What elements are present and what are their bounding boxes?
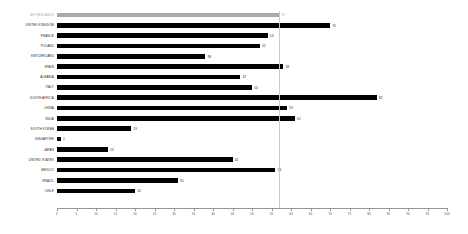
bar-row: UNITED KINGDOM70 (57, 21, 447, 31)
bar-row: JAPAN13 (57, 146, 447, 156)
bar (57, 126, 131, 131)
bar-row: SPAIN58 (57, 63, 447, 73)
bar-row: POLAND52 (57, 42, 447, 52)
bar-category-label: MEXICO (0, 166, 54, 174)
x-axis-tick-label: 95 (426, 212, 430, 217)
bar-row: SWITZERLAND38 (57, 52, 447, 62)
bar-category-label: JAPAN (0, 146, 54, 154)
bar (57, 54, 205, 59)
reference-line (279, 11, 280, 208)
bar-category-label: SPAIN (0, 63, 54, 71)
bar-category-label: ALBANIA (0, 73, 54, 81)
bar-category-label: BRAZIL (0, 177, 54, 185)
bar (57, 137, 61, 142)
bar (57, 75, 240, 80)
bar-value-label: 50 (254, 84, 258, 92)
bar-value-label: 47 (243, 73, 247, 81)
x-axis-tick (408, 208, 409, 211)
x-axis-tick (428, 208, 429, 211)
bar-category-label: UNITED STATES (0, 156, 54, 164)
x-axis-tick (233, 208, 234, 211)
bar (57, 23, 330, 28)
bar-category-label: FRANCE (0, 32, 54, 40)
x-axis-tick (350, 208, 351, 211)
x-axis-tick-label: 70 (328, 212, 332, 217)
x-axis-tick-label: 60 (289, 212, 293, 217)
x-axis-tick-label: 40 (211, 212, 215, 217)
bar-row: SOUTH AFRICA82 (57, 94, 447, 104)
bar-category-label: SWITZERLAND (0, 52, 54, 60)
x-axis-tick-label: 45 (231, 212, 235, 217)
x-axis-tick (330, 208, 331, 211)
x-axis-tick-label: 15 (114, 212, 118, 217)
bar-value-label: 59 (289, 104, 293, 112)
bar-row: INDIA61 (57, 115, 447, 125)
x-axis-tick-label: 25 (153, 212, 157, 217)
x-axis-tick-label: 85 (387, 212, 391, 217)
x-axis-tick-label: 55 (270, 212, 274, 217)
bar-row: NETHERLANDS57 (57, 11, 447, 21)
bar-value-label: 82 (379, 94, 383, 102)
bar-category-label: POLAND (0, 42, 54, 50)
x-axis-tick (447, 208, 448, 211)
x-axis-tick-label: 80 (367, 212, 371, 217)
bar-category-label: SOUTH KOREA (0, 125, 54, 133)
x-axis-tick (389, 208, 390, 211)
bar-category-label: NETHERLANDS (0, 11, 54, 19)
x-axis-tick-label: 10 (94, 212, 98, 217)
x-axis-tick (96, 208, 97, 211)
bar-row: SOUTH KOREA19 (57, 125, 447, 135)
bar-category-label: UNITED KINGDOM (0, 21, 54, 29)
x-axis-tick-label: 30 (172, 212, 176, 217)
x-axis-tick (311, 208, 312, 211)
x-axis-tick (77, 208, 78, 211)
x-axis-tick (213, 208, 214, 211)
x-axis-tick (252, 208, 253, 211)
x-axis-tick-label: 20 (133, 212, 137, 217)
bar-category-label: CHINA (0, 104, 54, 112)
x-axis: 0510152025303540455055606570758085909510… (57, 208, 447, 230)
x-axis-tick (116, 208, 117, 211)
x-axis-tick (291, 208, 292, 211)
x-axis-tick (57, 208, 58, 211)
bar-value-label: 38 (207, 53, 211, 61)
x-axis-tick-label: 5 (76, 212, 78, 217)
bar-value-label: 70 (332, 22, 336, 30)
bar-value-label: 1 (63, 135, 65, 143)
x-axis-tick-label: 0 (56, 212, 58, 217)
bar (57, 13, 279, 18)
bar-row: CHINA59 (57, 104, 447, 114)
bar (57, 106, 287, 111)
bar-value-label: 57 (282, 11, 286, 19)
bar (57, 178, 178, 183)
x-axis-tick-label: 100 (444, 212, 450, 217)
x-axis-tick-label: 35 (192, 212, 196, 217)
bar-row: ITALY50 (57, 83, 447, 93)
x-axis-tick (369, 208, 370, 211)
bar-value-label: 13 (110, 146, 114, 154)
bar-value-label: 19 (133, 125, 137, 133)
x-axis-tick (174, 208, 175, 211)
bar-row: BRAZIL31 (57, 177, 447, 187)
bar-value-label: 45 (235, 156, 239, 164)
bar (57, 189, 135, 194)
x-axis-tick (155, 208, 156, 211)
bar-row: FRANCE54 (57, 32, 447, 42)
bar (57, 157, 233, 162)
bar-value-label: 54 (270, 32, 274, 40)
x-axis-tick-label: 65 (309, 212, 313, 217)
bar-value-label: 20 (137, 187, 141, 195)
bar-row: ALBANIA47 (57, 73, 447, 83)
bar (57, 85, 252, 90)
bar (57, 116, 295, 121)
x-axis-tick (194, 208, 195, 211)
x-axis-tick (272, 208, 273, 211)
bar (57, 64, 283, 69)
bar-value-label: 58 (285, 63, 289, 71)
bar-category-label: SINGAPORE (0, 135, 54, 143)
bar-value-label: 31 (180, 177, 184, 185)
bar-row: SINGAPORE1 (57, 135, 447, 145)
bar-value-label: 52 (262, 42, 266, 50)
bar-row: UNITED STATES45 (57, 156, 447, 166)
bar-row: MEXICO56 (57, 166, 447, 176)
